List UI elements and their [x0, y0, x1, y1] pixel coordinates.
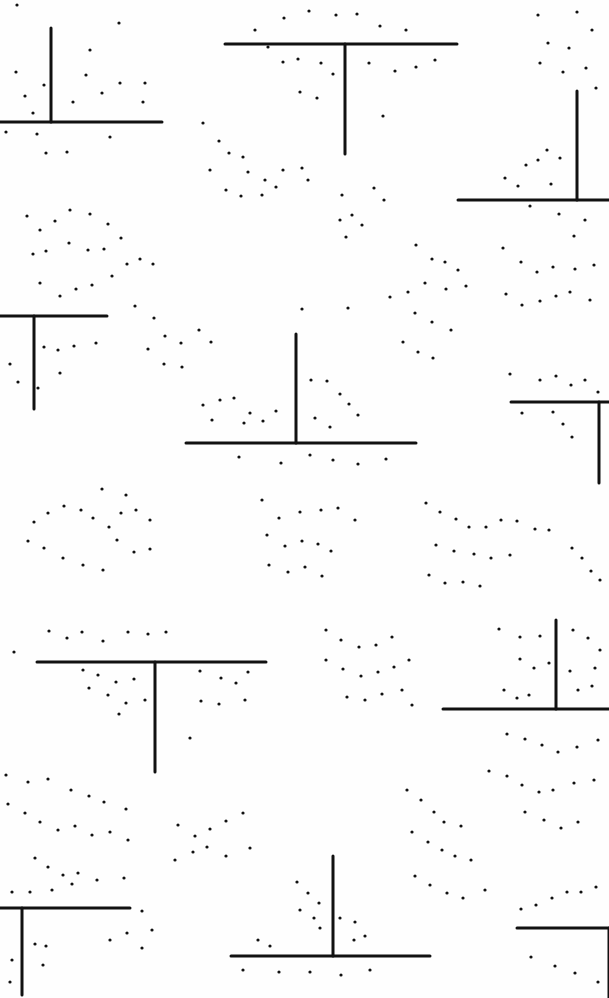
dot — [536, 13, 539, 16]
dot — [198, 669, 201, 672]
dot — [515, 696, 518, 699]
dot — [546, 41, 549, 44]
dot — [106, 222, 109, 225]
dot — [15, 3, 18, 6]
dot — [428, 883, 431, 886]
dot — [596, 738, 599, 741]
dot — [146, 347, 149, 350]
dot — [410, 830, 413, 833]
dot — [74, 287, 77, 290]
dot — [452, 549, 455, 552]
dot — [344, 235, 347, 238]
dot — [557, 212, 560, 215]
dot — [520, 303, 523, 306]
dot — [453, 854, 456, 857]
dot — [110, 274, 113, 277]
dot — [143, 698, 146, 701]
dot — [118, 81, 121, 84]
dot — [440, 848, 443, 851]
dot — [331, 72, 334, 75]
dot — [115, 538, 118, 541]
dot — [561, 422, 564, 425]
dot — [152, 316, 155, 319]
dot — [101, 568, 104, 571]
dot — [538, 299, 541, 302]
dot — [313, 416, 316, 419]
dot — [345, 695, 348, 698]
dot — [568, 669, 571, 672]
dot — [461, 580, 464, 583]
dot — [340, 193, 343, 196]
dot — [4, 773, 7, 776]
dot — [143, 81, 146, 84]
dot — [430, 320, 433, 323]
dot — [565, 890, 568, 893]
dot — [550, 896, 553, 899]
dot — [320, 574, 323, 577]
dot — [356, 413, 359, 416]
dot — [518, 635, 521, 638]
dot — [274, 409, 277, 412]
dot — [376, 670, 379, 673]
dot — [535, 270, 538, 273]
dot — [559, 826, 562, 829]
dot — [286, 570, 289, 573]
dot — [91, 516, 94, 519]
dot — [23, 94, 26, 97]
dot — [596, 980, 599, 983]
dot — [125, 931, 128, 934]
dot — [549, 182, 552, 185]
dot — [523, 810, 526, 813]
dot — [558, 156, 561, 159]
dot — [267, 563, 270, 566]
dot — [427, 573, 430, 576]
dot — [42, 83, 45, 86]
dot — [6, 802, 9, 805]
dot — [306, 178, 309, 181]
dot — [124, 493, 127, 496]
dot — [520, 411, 523, 414]
dot — [374, 643, 377, 646]
dot — [263, 178, 266, 181]
dot — [232, 396, 235, 399]
dot — [62, 504, 65, 507]
dot — [405, 788, 408, 791]
dot — [319, 508, 322, 511]
dot — [596, 390, 599, 393]
dot — [260, 498, 263, 501]
dot — [256, 938, 259, 941]
dot — [124, 807, 127, 810]
dot — [503, 176, 506, 179]
dot — [126, 630, 129, 633]
dot — [438, 510, 441, 513]
dot — [14, 70, 17, 73]
dot — [352, 938, 355, 941]
dot — [309, 378, 312, 381]
dot — [363, 698, 366, 701]
dot — [554, 294, 557, 297]
dot — [449, 328, 452, 331]
dot — [26, 780, 29, 783]
dot — [367, 61, 370, 64]
dot — [360, 223, 363, 226]
dot — [538, 61, 541, 64]
dot — [306, 891, 309, 894]
dot — [338, 392, 341, 395]
dot — [341, 667, 344, 670]
dot — [598, 648, 601, 651]
dot — [261, 419, 264, 422]
dot — [527, 693, 530, 696]
dot — [33, 856, 36, 859]
dot — [46, 865, 49, 868]
dot — [372, 186, 375, 189]
dot — [325, 379, 328, 382]
dot — [378, 24, 381, 27]
dot — [241, 968, 244, 971]
dot — [38, 228, 41, 231]
dot — [570, 435, 573, 438]
dot — [393, 69, 396, 72]
dot — [61, 873, 64, 876]
dot — [4, 130, 7, 133]
dot — [508, 553, 511, 556]
dot — [151, 262, 154, 265]
